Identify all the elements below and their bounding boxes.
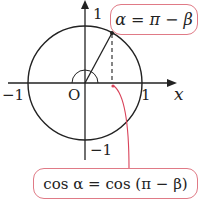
callout-arrow-tip-icon xyxy=(111,84,114,87)
x-pos-tick-label: 1 xyxy=(141,88,151,103)
callout-bottom: cos α = cos (π − β) xyxy=(33,168,198,199)
callout-bottom-text: cos α = cos (π − β) xyxy=(43,175,187,193)
x-axis-label: x xyxy=(174,86,184,103)
x-neg-tick-label: −1 xyxy=(2,88,24,103)
callout-top: α = π − β xyxy=(110,4,198,35)
callout-top-text: α = π − β xyxy=(115,10,193,29)
y-neg-tick-label: −1 xyxy=(90,143,112,158)
origin-label: O xyxy=(68,88,80,103)
radius-line xyxy=(85,33,112,83)
y-pos-tick-label: 1 xyxy=(93,7,103,22)
y-axis-arrow-icon xyxy=(81,0,89,9)
